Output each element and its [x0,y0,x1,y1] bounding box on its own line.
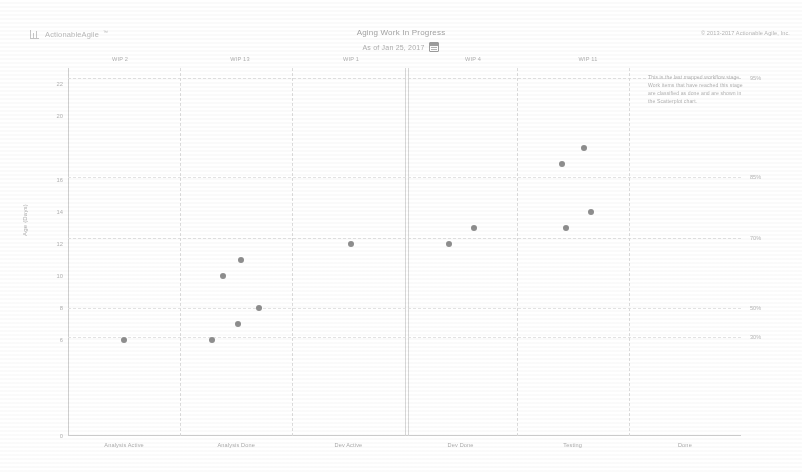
x-axis-label-dev-active: Dev Active [334,442,362,448]
data-point[interactable] [581,145,587,151]
data-point[interactable] [588,209,594,215]
column-separator-1 [180,68,181,436]
x-axis-label-done: Done [678,442,692,448]
column-separator-2 [292,68,293,436]
as-of-date-label: As of Jan 25, 2017 [363,44,425,51]
copyright-notice: © 2013-2017 Actionable Agile, Inc. [701,30,790,36]
y-axis-line [68,68,69,436]
page-title: Aging Work In Progress [0,28,802,37]
y-tick-20: 20 [57,113,63,119]
y-tick-8: 8 [60,305,63,311]
calendar-icon[interactable] [429,42,439,52]
wip-count-label-2: WIP 1 [343,56,359,62]
percentile-label-95: 95% [750,75,761,81]
column-separator-4 [517,68,518,436]
data-point[interactable] [121,337,127,343]
percentile-label-50: 50% [750,305,761,311]
percentile-label-70: 70% [750,235,761,241]
wip-count-label-1: WIP 13 [230,56,249,62]
data-point[interactable] [220,273,226,279]
x-axis-label-analysis-active: Analysis Active [104,442,144,448]
wip-count-label-3: WIP 4 [465,56,481,62]
data-point[interactable] [559,161,565,167]
x-axis-label-testing: Testing [563,442,582,448]
data-point[interactable] [348,241,354,247]
column-separator-3 [405,68,406,436]
wip-count-label-0: WIP 2 [112,56,128,62]
y-tick-16: 16 [57,177,63,183]
y-tick-6: 6 [60,337,63,343]
column-separator-5 [629,68,630,436]
as-of-date-control[interactable]: As of Jan 25, 2017 [0,42,802,52]
done-stage-annotation: This is the last mapped workflow stage. … [648,74,744,106]
y-tick-14: 14 [57,209,63,215]
column-separator-3b [408,68,409,436]
data-point[interactable] [235,321,241,327]
data-point[interactable] [209,337,215,343]
percentile-label-30: 30% [750,334,761,340]
data-point[interactable] [471,225,477,231]
y-tick-12: 12 [57,241,63,247]
wip-count-label-4: WIP 11 [578,56,597,62]
percentile-label-85: 85% [750,174,761,180]
data-point[interactable] [563,225,569,231]
y-axis-title: Age (Days) [22,204,28,236]
y-tick-10: 10 [57,273,63,279]
aging-wip-report: ActionableAgile™ Aging Work In Progress … [0,0,802,472]
data-point[interactable] [446,241,452,247]
scatter-plot-area: 681012141620220 95%85%70%50%30% Analysis… [68,68,741,436]
y-tick-22: 22 [57,81,63,87]
data-point[interactable] [238,257,244,263]
report-header: ActionableAgile™ Aging Work In Progress … [0,0,802,52]
data-point[interactable] [256,305,262,311]
x-axis-label-dev-done: Dev Done [448,442,474,448]
x-axis-label-analysis-done: Analysis Done [217,442,255,448]
y-tick-0: 0 [60,433,63,439]
